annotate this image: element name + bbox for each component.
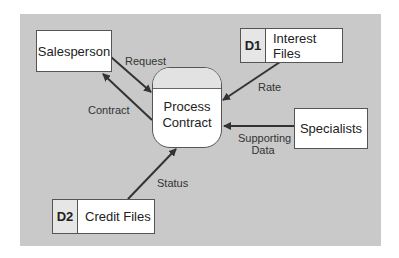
flow-label-request: Request — [125, 55, 166, 67]
process-label-line1: Process — [153, 99, 221, 115]
data-store-d2-id: D2 — [53, 200, 78, 233]
entity-specialists-label: Specialists — [300, 121, 362, 136]
flow-status-arrow — [128, 149, 176, 199]
flow-label-contract: Contract — [88, 104, 130, 116]
process-header-band — [153, 68, 221, 89]
flow-label-status: Status — [157, 177, 188, 189]
data-store-d1-label: Interest Files — [266, 29, 342, 62]
flow-label-supporting-data-line2: Data — [238, 144, 288, 156]
flow-label-supporting-data-line1: Supporting — [238, 132, 288, 144]
data-store-d1: D1 Interest Files — [240, 28, 343, 63]
data-store-d2: D2 Credit Files — [52, 199, 155, 234]
process-label: Process Contract — [153, 99, 221, 131]
entity-specialists: Specialists — [294, 108, 368, 149]
data-store-d2-label: Credit Files — [78, 200, 154, 233]
entity-salesperson: Salesperson — [36, 30, 112, 72]
process-label-line2: Contract — [153, 115, 221, 131]
data-store-d1-id: D1 — [241, 29, 266, 62]
flow-label-supporting-data: Supporting Data — [238, 132, 288, 156]
flow-label-rate: Rate — [258, 81, 281, 93]
process-contract: Process Contract — [152, 67, 222, 148]
entity-salesperson-label: Salesperson — [38, 44, 110, 59]
